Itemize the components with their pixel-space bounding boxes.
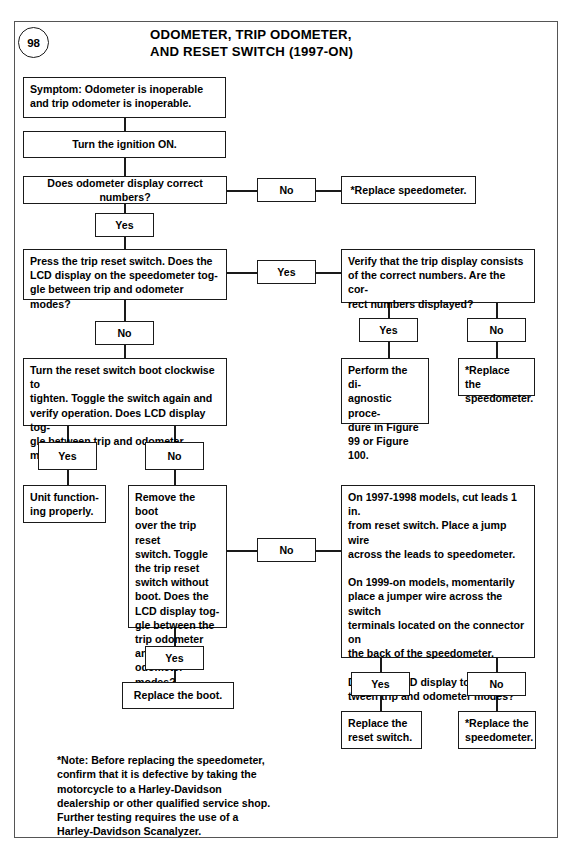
connector-no-to-remove-boot: [174, 470, 176, 485]
connector-remove-boot-to-no: [227, 550, 257, 552]
node-unit-functioning: Unit function- ing properly.: [23, 485, 106, 523]
node-odometer-display-question: Does odometer display correct numbers?: [23, 176, 227, 204]
node-replace-speedometer-1: *Replace speedometer.: [341, 176, 476, 204]
node-odometer-display-question-text: Does odometer display correct numbers?: [24, 176, 226, 204]
node-replace-speedometer-3: *Replace the speedometer.: [458, 711, 536, 749]
node-replace-boot-text: Replace the boot.: [134, 688, 222, 702]
decision-yes-jumper-wire: Yes: [351, 672, 410, 696]
node-replace-reset-switch: Replace the reset switch.: [341, 711, 422, 749]
node-symptom-text: Symptom: Odometer is inoperable and trip…: [30, 82, 219, 110]
node-verify-trip-display-question-text: Verify that the trip display consists of…: [348, 254, 528, 311]
node-unit-functioning-text: Unit function- ing properly.: [30, 490, 99, 518]
decision-no-odometer-display: No: [257, 178, 316, 202]
decision-yes-odometer-display: Yes: [95, 213, 154, 237]
node-replace-speedometer-3-text: *Replace the speedometer.: [465, 716, 529, 744]
page-number-text: 98: [27, 37, 39, 49]
decision-yes-turn-boot: Yes: [38, 442, 97, 470]
decision-no-jumper-wire-label: No: [489, 678, 503, 690]
node-remove-boot-question: Remove the boot over the trip reset swit…: [128, 485, 227, 628]
connector-no-to-replace-speedometer-1: [316, 190, 341, 192]
decision-no-press-trip-reset: No: [95, 321, 154, 345]
node-replace-speedometer-1-text: *Replace speedometer.: [351, 183, 467, 197]
decision-yes-verify-trip-display: Yes: [359, 318, 418, 342]
decision-no-turn-boot-label: No: [167, 450, 181, 462]
node-press-trip-reset-question-text: Press the trip reset switch. Does the LC…: [30, 254, 220, 311]
node-symptom: Symptom: Odometer is inoperable and trip…: [23, 77, 226, 118]
page-title-line-1: ODOMETER, TRIP ODOMETER,: [150, 26, 480, 43]
page-title: ODOMETER, TRIP ODOMETER, AND RESET SWITC…: [150, 26, 480, 60]
footnote-note: *Note: Before replacing the speedometer,…: [57, 753, 357, 839]
connector-yes-to-verify-trip-display: [316, 272, 341, 274]
decision-no-press-trip-reset-label: No: [117, 327, 131, 339]
decision-yes-jumper-wire-label: Yes: [371, 678, 389, 690]
connector-ignition-to-odo-question: [124, 158, 126, 176]
decision-yes-press-trip-reset-label: Yes: [277, 266, 295, 278]
decision-no-remove-boot: No: [257, 538, 316, 562]
connector-no-to-replace-speedometer-2: [496, 342, 498, 358]
node-replace-speedometer-2-text: *Replace the speedometer.: [465, 363, 528, 406]
connector-symptom-to-ignition: [124, 118, 126, 131]
page-title-line-2: AND RESET SWITCH (1997-ON): [150, 43, 480, 60]
decision-no-verify-trip-display: No: [467, 318, 526, 342]
decision-yes-press-trip-reset: Yes: [257, 260, 316, 284]
connector-odo-question-to-no: [227, 190, 257, 192]
decision-no-jumper-wire: No: [467, 672, 526, 696]
connector-no-to-turn-boot: [124, 345, 126, 358]
node-press-trip-reset-question: Press the trip reset switch. Does the LC…: [23, 249, 227, 300]
decision-yes-verify-trip-display-label: Yes: [379, 324, 397, 336]
decision-yes-turn-boot-label: Yes: [58, 450, 76, 462]
connector-odo-question-to-yes: [124, 204, 126, 213]
node-replace-speedometer-2: *Replace the speedometer.: [458, 358, 535, 396]
node-replace-boot: Replace the boot.: [122, 682, 234, 709]
connector-yes-to-perform-diagnostic: [388, 342, 390, 358]
decision-yes-remove-boot-label: Yes: [165, 652, 183, 664]
node-perform-diagnostic: Perform the di- agnostic proce- dure in …: [341, 358, 429, 424]
decision-no-turn-boot: No: [145, 442, 204, 470]
decision-no-remove-boot-label: No: [279, 544, 293, 556]
decision-no-odometer-display-label: No: [279, 184, 293, 196]
decision-yes-remove-boot: Yes: [145, 646, 204, 670]
connector-no-to-jumper-wire: [316, 550, 341, 552]
node-replace-reset-switch-text: Replace the reset switch.: [348, 716, 415, 744]
connector-yes-to-unit-functioning: [67, 470, 69, 485]
decision-no-verify-trip-display-label: No: [489, 324, 503, 336]
node-turn-ignition: Turn the ignition ON.: [23, 131, 226, 158]
node-turn-boot-question: Turn the reset switch boot clockwise to …: [23, 358, 227, 426]
flowchart-page: 98 ODOMETER, TRIP ODOMETER, AND RESET SW…: [0, 0, 574, 854]
connector-press-trip-reset-to-yes: [227, 272, 257, 274]
decision-yes-odometer-display-label: Yes: [115, 219, 133, 231]
node-turn-ignition-text: Turn the ignition ON.: [72, 137, 177, 151]
node-jumper-wire-question: On 1997-1998 models, cut leads 1 in. fro…: [341, 485, 535, 658]
connector-yes-to-press-trip-reset: [124, 237, 126, 249]
page-number-badge: 98: [18, 27, 49, 58]
node-verify-trip-display-question: Verify that the trip display consists of…: [341, 249, 535, 303]
node-perform-diagnostic-text: Perform the di- agnostic proce- dure in …: [348, 363, 422, 462]
